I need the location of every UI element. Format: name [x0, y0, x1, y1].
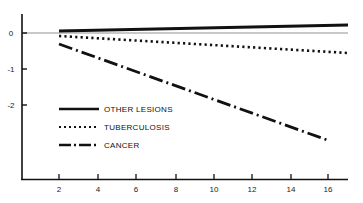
legend: OTHER LESIONS TUBERCULOSIS CANCER: [59, 105, 173, 150]
y-ticks: 0 -1 -2: [7, 29, 27, 110]
x-tick-label: 4: [96, 185, 101, 194]
line-chart: 0 -1 -2 2 4 6 8 10 12 14 16 OTHER LESION…: [0, 0, 363, 203]
x-tick-label: 12: [248, 185, 257, 194]
series-cancer: [59, 44, 330, 141]
series-other-lesions: [59, 25, 348, 31]
x-tick-label: 14: [287, 185, 296, 194]
y-tick-label: -2: [7, 101, 15, 110]
x-tick-label: 10: [210, 185, 219, 194]
x-tick-label: 2: [57, 185, 62, 194]
x-tick-label: 6: [134, 185, 139, 194]
legend-label: CANCER: [104, 141, 140, 150]
legend-label: OTHER LESIONS: [104, 105, 173, 114]
legend-label: TUBERCULOSIS: [104, 123, 170, 132]
y-tick-label: 0: [9, 29, 14, 38]
series-tuberculosis: [59, 36, 348, 53]
y-tick-label: -1: [7, 65, 15, 74]
x-tick-label: 16: [324, 185, 333, 194]
x-tick-label: 8: [174, 185, 179, 194]
x-ticks: 2 4 6 8 10 12 14 16: [57, 174, 333, 194]
